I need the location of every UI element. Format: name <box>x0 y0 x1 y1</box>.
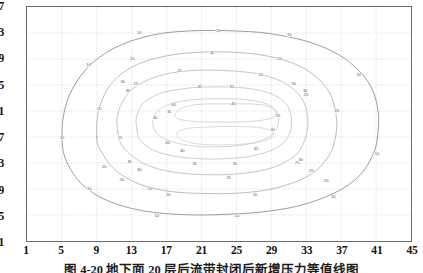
contour-label: 10 <box>375 152 380 156</box>
contour-label: 25 <box>226 176 231 180</box>
contour-label: 25 <box>309 169 314 173</box>
x-tick-label: 9 <box>93 244 99 256</box>
contour-label: 35 <box>232 162 237 166</box>
x-tick-label: 21 <box>196 244 207 256</box>
contour-label: 45 <box>254 147 259 151</box>
x-tick-label: 5 <box>58 244 64 256</box>
contour-label: 10 <box>87 187 92 191</box>
contour-label: 35 <box>229 85 234 89</box>
contour-label: 20 <box>166 193 171 197</box>
contour-label: 40 <box>153 116 158 120</box>
contour-label: 20 <box>253 192 258 196</box>
figure-caption: 图 4-20 地下面 20 层后流带封闭后新增压力等值线图 <box>0 259 423 273</box>
y-tick-label: 9 <box>0 184 4 196</box>
contour-label: 40 <box>270 128 275 132</box>
y-tick-label: 29 <box>0 52 4 64</box>
contour-label: 25 <box>177 69 182 73</box>
contour-label: 30 <box>137 168 142 172</box>
contour-label: 30 <box>120 80 125 84</box>
contour-label: 30 <box>291 82 296 86</box>
x-tick-label: 33 <box>301 244 312 256</box>
contour-label: 20 <box>130 57 135 61</box>
contour-label: 25 <box>133 82 138 86</box>
contour-label: 10 <box>331 195 336 199</box>
contour-label: 35 <box>192 162 197 166</box>
contour-label: 35 <box>197 85 202 89</box>
x-tick-label: 25 <box>231 244 242 256</box>
contour-label: 10 <box>356 73 361 77</box>
contour-label: 30 <box>303 89 308 93</box>
y-tick-label: 25 <box>0 79 4 91</box>
y-tick-label: 17 <box>0 131 4 143</box>
contour-label: 40 <box>171 103 176 107</box>
y-tick-label: 21 <box>0 105 4 117</box>
contour-label: 10 <box>86 63 91 67</box>
contour-label: 30 <box>125 89 130 93</box>
x-tick-label: 13 <box>126 244 137 256</box>
x-tick-label: 29 <box>266 244 277 256</box>
contour-label: 20 <box>334 109 339 113</box>
figure-container: 1010101010101010101010202020202020202020… <box>0 0 423 273</box>
contour-label: 10 <box>60 136 65 140</box>
x-tick-label: 37 <box>336 244 347 256</box>
x-tick-label: 1 <box>23 244 29 256</box>
contour-label: 10 <box>137 31 142 35</box>
contour-label: 10 <box>216 29 221 33</box>
contour-label: 25 <box>258 73 263 77</box>
contour-label: 30 <box>298 158 303 162</box>
contour-label: 10 <box>287 33 292 37</box>
x-tick-label: 45 <box>406 244 417 256</box>
contour-label: 20 <box>324 179 329 183</box>
contour-label: 40 <box>165 141 170 145</box>
y-tick-label: 1 <box>0 236 4 248</box>
x-tick-label: 41 <box>371 244 382 256</box>
contour-label: 10 <box>154 214 159 218</box>
contour-label: 20 <box>96 107 101 111</box>
contour-label: 40 <box>231 102 236 106</box>
contour-plot: 1010101010101010101010202020202020202020… <box>26 6 412 242</box>
y-tick-label: 37 <box>0 0 4 12</box>
x-tick-label: 17 <box>161 244 172 256</box>
contour-label: 35 <box>275 114 280 118</box>
contour-value-labels: 1010101010101010101010202020202020202020… <box>27 7 411 241</box>
contour-label: 30 <box>127 160 132 164</box>
contour-label: 10 <box>234 214 239 218</box>
contour-label: 35 <box>167 110 172 114</box>
y-tick-label: 5 <box>0 210 4 222</box>
contour-label: 40 <box>180 149 185 153</box>
contour-label: 20 <box>147 187 152 191</box>
contour-label: 20 <box>277 57 282 61</box>
contour-label: 25 <box>304 93 309 97</box>
contour-label: 20 <box>102 165 107 169</box>
contour-label: 30 <box>210 51 215 55</box>
y-tick-label: 33 <box>0 26 4 38</box>
contour-label: 25 <box>118 136 123 140</box>
y-tick-label: 13 <box>0 157 4 169</box>
contour-label: 20 <box>119 178 124 182</box>
